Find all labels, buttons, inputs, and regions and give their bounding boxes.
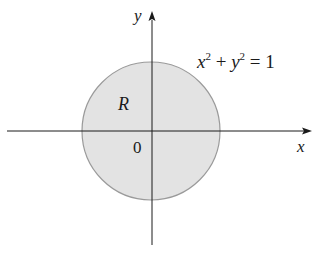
circle-equation-label: x2 + y2 = 1 (196, 50, 275, 72)
origin-label: 0 (133, 138, 142, 157)
equation-y: y (229, 51, 240, 72)
x-axis-label: x (296, 137, 305, 156)
equation-rhs: = 1 (245, 51, 275, 72)
y-axis-label: y (132, 6, 142, 25)
region-label: R (117, 94, 129, 114)
unit-disk-diagram: y x 0 R x2 + y2 = 1 (0, 0, 314, 256)
y-axis-arrow-icon (149, 11, 156, 21)
equation-plus: + (211, 51, 231, 72)
